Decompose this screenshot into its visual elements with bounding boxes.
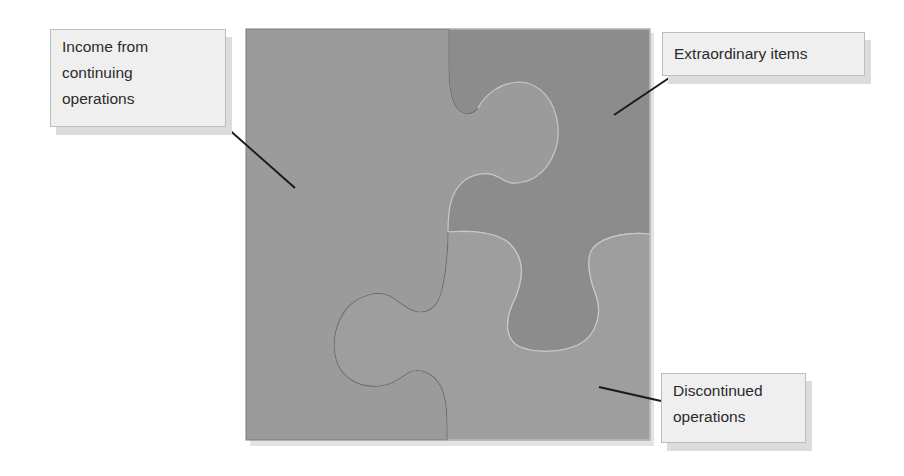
callout-text: operations xyxy=(62,86,215,112)
callout-discontinued-operations: Discontinued operations xyxy=(661,373,806,443)
callout-text: operations xyxy=(673,404,795,430)
callout-text: Extraordinary items xyxy=(674,41,854,67)
callout-text: continuing xyxy=(62,60,215,86)
callout-income-continuing-operations: Income from continuing operations xyxy=(50,29,226,127)
callout-text: Discontinued xyxy=(673,378,795,404)
callout-text: Income from xyxy=(62,34,215,60)
callout-extraordinary-items: Extraordinary items xyxy=(662,32,865,76)
